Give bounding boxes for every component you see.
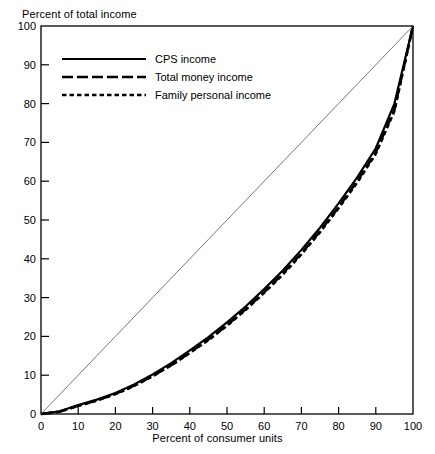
x-tick-label: 20 [109,420,121,432]
x-tick-label: 10 [72,420,84,432]
legend-label: Family personal income [155,89,271,101]
y-axis-ticks [41,65,49,375]
x-axis-tick-labels: 0102030405060708090100 [38,420,422,432]
x-tick-label: 0 [38,420,44,432]
y-tick-label: 0 [30,408,36,420]
y-axis-tick-labels: 0102030405060708090100 [18,20,36,420]
y-tick-label: 60 [24,175,36,187]
y-tick-label: 30 [24,292,36,304]
x-tick-label: 80 [332,420,344,432]
y-tick-label: 70 [24,136,36,148]
y-tick-label: 40 [24,253,36,265]
y-tick-label: 100 [18,20,36,32]
x-axis-ticks [78,407,376,414]
x-tick-label: 40 [184,420,196,432]
x-tick-label: 60 [258,420,270,432]
x-tick-label: 50 [221,420,233,432]
y-tick-label: 10 [24,369,36,381]
y-tick-label: 90 [24,59,36,71]
x-tick-label: 30 [146,420,158,432]
series-thin-diagonal [41,26,413,414]
data-series-layer [41,26,413,414]
lorenz-curve-chart: Percent of total income Percent of consu… [0,0,435,454]
x-tick-label: 100 [404,420,422,432]
chart-svg: 0102030405060708090100 01020304050607080… [0,0,435,454]
chart-legend: CPS incomeTotal money incomeFamily perso… [62,53,271,101]
x-tick-label: 90 [370,420,382,432]
legend-label: Total money income [155,71,253,83]
y-tick-label: 80 [24,98,36,110]
x-tick-label: 70 [295,420,307,432]
y-tick-label: 50 [24,214,36,226]
y-tick-label: 20 [24,330,36,342]
legend-label: CPS income [155,53,216,65]
